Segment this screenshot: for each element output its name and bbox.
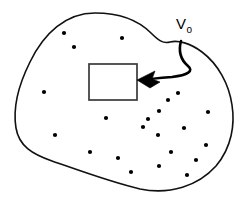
velocity-label-base: V <box>176 15 186 32</box>
particle-dot <box>157 164 161 168</box>
particle-dot <box>156 133 160 137</box>
fluid-region-outline <box>15 13 233 191</box>
particle-dot <box>42 90 46 94</box>
particle-dot <box>194 158 198 162</box>
particle-dot <box>182 126 186 130</box>
particle-dot <box>185 173 189 177</box>
particle-dot <box>72 45 76 49</box>
velocity-label: Vo <box>176 15 193 35</box>
particle-dot <box>62 31 66 35</box>
particle-dot <box>53 133 57 137</box>
particle-dot <box>157 109 161 113</box>
particle-dot <box>204 143 208 147</box>
particle-dot <box>88 150 92 154</box>
particle-dot <box>206 110 210 114</box>
particle-dot <box>116 156 120 160</box>
velocity-label-subscript: o <box>187 24 193 35</box>
particle-dot <box>141 125 145 129</box>
particle-dot <box>104 116 108 120</box>
particle-dot <box>166 98 170 102</box>
particle-dot <box>176 91 180 95</box>
particle-dot <box>146 117 150 121</box>
diagram-canvas: Vo <box>0 0 251 199</box>
particle-dot <box>120 36 124 40</box>
control-volume-diagram: Vo <box>0 0 251 199</box>
control-volume-rectangle <box>89 64 137 100</box>
particle-dot <box>129 170 133 174</box>
particle-dot <box>169 150 173 154</box>
